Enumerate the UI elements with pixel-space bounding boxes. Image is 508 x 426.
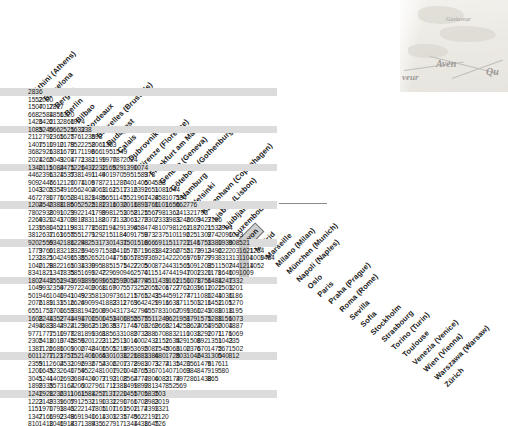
distance-cell[interactable]: 1753 <box>197 239 207 247</box>
distance-cell[interactable]: 2069 <box>176 254 186 262</box>
distance-cell[interactable]: 1186 <box>60 201 70 209</box>
distance-cell[interactable]: 1061 <box>70 390 80 398</box>
distance-cell[interactable]: 1288 <box>207 315 217 323</box>
distance-cell[interactable]: 1920 <box>112 367 122 375</box>
table-row[interactable]: 9202559634218612249825317301431750151866… <box>0 239 277 247</box>
distance-cell[interactable]: 837 <box>70 420 80 426</box>
distance-cell[interactable]: 3016 <box>123 337 133 345</box>
distance-cell[interactable]: 1431 <box>112 239 122 247</box>
distance-cell[interactable]: 501 <box>28 292 38 300</box>
distance-cell[interactable]: 1303 <box>102 413 112 421</box>
distance-cell[interactable]: 969 <box>70 413 80 421</box>
distance-cell[interactable]: 1234 <box>250 247 260 255</box>
distance-cell[interactable]: 356 <box>186 360 196 368</box>
distance-cell[interactable]: 1621 <box>239 247 249 255</box>
distance-cell[interactable]: 1073 <box>144 360 154 368</box>
distance-cell[interactable]: 510 <box>165 231 175 239</box>
distance-cell[interactable]: 1240 <box>155 315 165 323</box>
distance-cell[interactable]: 2166 <box>39 413 49 421</box>
distance-cell[interactable]: 1302 <box>197 231 207 239</box>
distance-cell[interactable]: 690 <box>81 299 91 307</box>
distance-cell[interactable]: 1484 <box>207 277 217 285</box>
distance-cell[interactable]: 2066 <box>165 345 175 353</box>
distance-cell[interactable]: 2128 <box>39 262 49 270</box>
distance-cell[interactable]: 1651 <box>144 186 154 194</box>
distance-cell[interactable]: 2687 <box>70 375 80 383</box>
distance-cell[interactable]: 3516 <box>60 299 70 307</box>
distance-cell[interactable]: 1503 <box>186 299 196 307</box>
distance-cell[interactable]: 3760 <box>39 247 49 255</box>
table-row[interactable]: 1231282150424961535852652104417561057185… <box>0 254 277 262</box>
distance-cell[interactable]: 1292 <box>197 330 207 338</box>
distance-cell[interactable]: 1324 <box>49 171 59 179</box>
distance-cell[interactable]: 1191 <box>102 224 112 232</box>
distance-cell[interactable]: 1009 <box>250 254 260 262</box>
distance-cell[interactable]: 1843 <box>60 405 70 413</box>
distance-cell[interactable]: 1347 <box>49 269 59 277</box>
distance-cell[interactable]: 658 <box>134 224 144 232</box>
distance-cell[interactable]: 670 <box>197 345 207 353</box>
distance-cell[interactable]: 2141 <box>81 209 91 217</box>
distance-cell[interactable]: 2817 <box>70 216 80 224</box>
distance-cell[interactable]: 505 <box>70 201 80 209</box>
distance-cell[interactable]: 791 <box>60 186 70 194</box>
distance-cell[interactable]: 2393 <box>144 405 154 413</box>
distance-cell[interactable]: 1645 <box>144 420 154 426</box>
distance-cell[interactable]: 2404 <box>81 186 91 194</box>
distance-cell[interactable]: 2038 <box>228 247 238 255</box>
distance-cell[interactable]: 1387 <box>28 345 38 353</box>
distance-cell[interactable]: 1745 <box>123 322 133 330</box>
distance-cell[interactable]: 1708 <box>134 398 144 406</box>
distance-cell[interactable]: 1080 <box>197 292 207 300</box>
distance-cell[interactable]: 1363 <box>102 141 112 149</box>
distance-cell[interactable]: 1420 <box>176 360 186 368</box>
distance-cell[interactable]: 2129 <box>70 322 80 330</box>
distance-cell[interactable]: 2135 <box>165 360 175 368</box>
distance-cell[interactable]: 972 <box>70 284 80 292</box>
distance-cell[interactable]: 3279 <box>134 216 144 224</box>
distance-cell[interactable]: 2604 <box>49 360 59 368</box>
distance-cell[interactable]: 1510 <box>39 141 49 149</box>
distance-cell[interactable]: 1518 <box>134 239 144 247</box>
distance-cell[interactable]: 4683 <box>39 322 49 330</box>
distance-cell[interactable]: 1453 <box>102 315 112 323</box>
distance-cell[interactable]: 1089 <box>123 330 133 338</box>
distance-cell[interactable]: 1722 <box>176 239 186 247</box>
distance-cell[interactable]: 690 <box>112 269 122 277</box>
distance-cell[interactable]: 1451 <box>49 224 59 232</box>
distance-cell[interactable]: 2780 <box>39 194 49 202</box>
distance-cell[interactable]: 995 <box>91 262 101 270</box>
distance-cell[interactable]: 1036 <box>218 292 228 300</box>
distance-cell[interactable]: 1226 <box>123 352 133 360</box>
distance-cell[interactable]: 2192 <box>144 413 154 421</box>
distance-cell[interactable]: 3252 <box>134 284 144 292</box>
distance-cell[interactable]: 2354 <box>49 186 59 194</box>
distance-cell[interactable]: 1378 <box>123 360 133 368</box>
distance-cell[interactable]: 1052 <box>250 262 260 270</box>
distance-cell[interactable]: 1614 <box>91 413 101 421</box>
distance-cell[interactable]: 581 <box>91 292 101 300</box>
distance-cell[interactable]: 1607 <box>60 398 70 406</box>
distance-cell[interactable]: 1069 <box>228 330 238 338</box>
distance-cell[interactable]: 1386 <box>144 352 154 360</box>
distance-cell[interactable]: 2096 <box>70 360 80 368</box>
distance-cell[interactable]: 2624 <box>70 299 80 307</box>
distance-cell[interactable]: 1201 <box>228 284 238 292</box>
distance-cell[interactable]: 1928 <box>39 390 49 398</box>
distance-cell[interactable]: 750 <box>123 239 133 247</box>
distance-cell[interactable]: 2381 <box>81 156 91 164</box>
distance-cell[interactable]: 2054 <box>197 322 207 330</box>
distance-cell[interactable]: 890 <box>102 307 112 315</box>
distance-cell[interactable]: 1883 <box>134 352 144 360</box>
distance-cell[interactable]: 865 <box>207 375 217 383</box>
distance-cell[interactable]: 2244 <box>39 315 49 323</box>
distance-cell[interactable]: 1711 <box>102 382 112 390</box>
distance-cell[interactable]: 1360 <box>165 247 175 255</box>
distance-cell[interactable]: 1552 <box>28 96 38 104</box>
distance-cell[interactable]: 2376 <box>186 345 196 353</box>
distance-cell[interactable]: 1970 <box>39 405 49 413</box>
distance-cell[interactable]: 1320 <box>197 269 207 277</box>
distance-cell[interactable]: 151 <box>165 239 175 247</box>
distance-cell[interactable]: 2039 <box>186 284 196 292</box>
distance-cell[interactable]: 2913 <box>197 247 207 255</box>
